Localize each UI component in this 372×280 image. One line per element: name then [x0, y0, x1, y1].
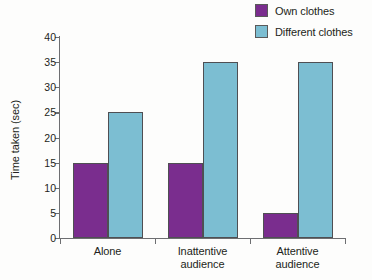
bar-attentive-audience-different-clothes: [298, 62, 333, 238]
y-tick-label: 30: [44, 81, 56, 93]
y-tick-label: 35: [44, 56, 56, 68]
y-tick-label: 0: [50, 232, 56, 244]
bar-attentive-audience-own-clothes: [263, 213, 298, 238]
chart-legend: Own clothes Different clothes: [255, 4, 353, 38]
x-category-line: Attentive: [250, 245, 345, 258]
y-tick-label: 10: [44, 182, 56, 194]
x-category-label-inattentive-audience: Inattentiveaudience: [155, 245, 250, 271]
x-category-line: audience: [250, 258, 345, 271]
chart-page: Own clothes Different clothes Time taken…: [0, 0, 372, 280]
y-tick-label: 25: [44, 106, 56, 118]
legend-label-own-clothes: Own clothes: [275, 5, 334, 17]
x-category-line: audience: [155, 258, 250, 271]
legend-label-different-clothes: Different clothes: [275, 26, 353, 38]
x-tick-mark: [155, 238, 156, 244]
x-tick-mark: [60, 238, 61, 244]
y-tick-label: 5: [50, 207, 56, 219]
bar-alone-different-clothes: [108, 112, 143, 238]
x-category-label-attentive-audience: Attentiveaudience: [250, 245, 345, 271]
y-tick-label: 20: [44, 132, 56, 144]
bar-inattentive-audience-different-clothes: [203, 62, 238, 238]
bar-inattentive-audience-own-clothes: [168, 163, 203, 238]
plot-area: 0510152025303540: [60, 37, 345, 238]
x-tick-mark: [345, 238, 346, 244]
legend-swatch-own-clothes: [255, 4, 268, 17]
x-tick-mark: [250, 238, 251, 244]
legend-item-own-clothes: Own clothes: [255, 4, 353, 17]
x-category-line: Alone: [60, 245, 155, 258]
x-category-line: Inattentive: [155, 245, 250, 258]
x-category-label-alone: Alone: [60, 245, 155, 258]
y-axis-title: Time taken (sec): [9, 100, 21, 180]
y-tick-label: 40: [44, 31, 56, 43]
bar-alone-own-clothes: [73, 163, 108, 238]
y-tick-label: 15: [44, 157, 56, 169]
